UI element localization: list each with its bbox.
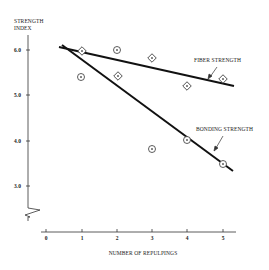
bonding-strength-trend-line bbox=[62, 45, 233, 171]
x-tick-5: 5 bbox=[222, 235, 225, 241]
diamond-marker bbox=[148, 54, 156, 62]
y-axis-label-line1: STRENGTH bbox=[14, 18, 44, 24]
bonding-strength-annotation: BONDING STRENGTH bbox=[196, 126, 253, 132]
x-tick-3: 3 bbox=[151, 235, 154, 241]
circle-marker bbox=[114, 47, 121, 54]
x-axis bbox=[41, 229, 236, 232]
x-axis-label: NUMBER OF REPULPINGS bbox=[109, 250, 178, 256]
y-tick-5: 5.0 bbox=[14, 92, 21, 98]
circle-marker bbox=[184, 137, 191, 144]
y-tick-6: 6.0 bbox=[14, 47, 21, 53]
diamond-marker bbox=[114, 72, 122, 80]
circle-marker bbox=[220, 161, 227, 168]
x-tick-2: 2 bbox=[116, 235, 119, 241]
circle-marker bbox=[149, 146, 156, 153]
chart: STRENGTH INDEX 6.0 5.0 4.0 3.0 0 1 2 3 4… bbox=[0, 0, 269, 270]
x-tick-0: 0 bbox=[45, 235, 48, 241]
fiber-strength-trend-line bbox=[59, 47, 234, 86]
circle-marker bbox=[78, 74, 85, 81]
x-tick-4: 4 bbox=[186, 235, 189, 241]
fiber-annotation-arrow bbox=[208, 67, 217, 79]
bonding-annotation-arrow bbox=[214, 136, 223, 151]
y-tick-3: 3.0 bbox=[14, 183, 21, 189]
y-axis bbox=[25, 35, 40, 221]
diamond-marker bbox=[78, 47, 86, 55]
diamond-marker bbox=[183, 82, 191, 90]
fiber-strength-annotation: FIBER STRENGTH bbox=[194, 57, 241, 63]
y-axis-label-line2: INDEX bbox=[14, 25, 32, 31]
x-tick-1: 1 bbox=[81, 235, 84, 241]
y-tick-4: 4.0 bbox=[14, 138, 21, 144]
